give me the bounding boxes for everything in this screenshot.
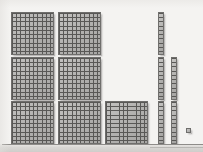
hundred-flat-3 — [11, 57, 54, 100]
hundred-flat-6 — [58, 101, 101, 144]
page-bottom-rule-secondary — [150, 147, 203, 148]
ten-rod-1 — [158, 12, 164, 55]
page-bottom-rule — [2, 144, 203, 145]
ten-rod-5 — [171, 101, 177, 144]
hundred-flat-4 — [58, 57, 101, 100]
hundred-flat-1 — [11, 12, 54, 55]
unit-cube-1 — [186, 128, 191, 133]
base-ten-blocks-figure: Base-ten blocks place value model Scanne… — [0, 0, 203, 152]
page-bottom-edge — [0, 144, 203, 152]
figure-title: Base-ten blocks place value model — [0, 21, 1, 22]
ten-rod-2 — [158, 57, 164, 100]
hundred-flat-2 — [58, 12, 101, 55]
hundred-flat-7 — [105, 101, 148, 144]
hundred-flat-5 — [11, 101, 54, 144]
ten-rod-4 — [158, 101, 164, 144]
figure-description: Scanned worksheet image showing base-ten… — [0, 16, 1, 17]
ten-rod-3 — [171, 57, 177, 100]
